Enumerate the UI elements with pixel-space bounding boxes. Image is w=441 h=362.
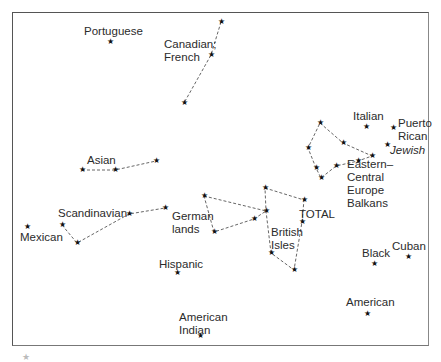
label-asian: Asian [87,154,116,167]
label-american-indian: American Indian [179,311,228,337]
label-puerto-rican: Puerto Rican [398,117,432,143]
star-icon: ★ [262,207,270,215]
label-eastern-central-europe-balkans: Eastern– Central Europe Balkans [347,158,393,210]
star-icon: ★ [22,352,30,362]
caption-fragment: ★ [22,352,30,362]
label-total: TOTAL [299,208,335,221]
star-icon: ★ [180,99,188,107]
star-icon: ★ [332,162,340,170]
star-icon: ★ [261,184,269,192]
label-black: Black [362,247,390,260]
label-canadian-french: Canadian; French [164,38,216,64]
star-icon: ★ [304,144,312,152]
star-icon: ★ [290,266,298,274]
star-icon: ★ [106,38,114,46]
label-american: American [346,296,395,309]
star-icon: ★ [363,310,371,318]
label-german-lands: German lands [172,210,214,236]
label-italian: Italian [353,110,384,123]
label-portuguese: Portuguese [84,25,143,38]
star-icon: ★ [152,157,160,165]
star-icon: ★ [78,166,86,174]
star-icon: ★ [316,119,324,127]
star-icon: ★ [300,196,308,204]
star-icon: ★ [389,124,397,132]
label-mexican: Mexican [20,231,63,244]
star-icon: ★ [161,204,169,212]
label-scandinavian: Scandinavian [58,207,127,220]
star-icon: ★ [111,166,119,174]
star-icon: ★ [362,123,370,131]
label-british-isles: British Isles [271,226,303,252]
star-icon: ★ [339,139,347,147]
star-icon: ★ [200,192,208,200]
label-jewish: Jewish [390,144,425,157]
label-hispanic: Hispanic [159,258,203,271]
label-cuban: Cuban [392,240,426,253]
star-icon: ★ [23,223,31,231]
star-icon: ★ [404,253,412,261]
star-icon: ★ [312,164,320,172]
star-icon: ★ [217,18,225,26]
star-icon: ★ [73,239,81,247]
star-icon: ★ [58,221,66,229]
star-icon: ★ [250,215,258,223]
star-icon: ★ [317,174,325,182]
star-icon: ★ [370,260,378,268]
